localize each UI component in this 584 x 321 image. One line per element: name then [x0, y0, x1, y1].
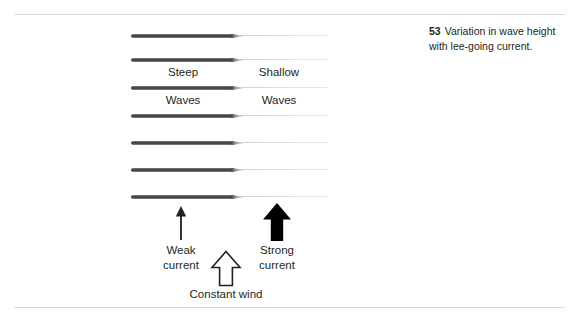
thin-up-arrow-icon [170, 206, 192, 240]
figure-number: 53 [429, 25, 441, 37]
weak-current-label: Weak current [150, 243, 212, 272]
waves-label-left: Waves [152, 95, 214, 107]
wave-line [131, 57, 327, 63]
strong-current-label: Strong current [246, 243, 308, 272]
wave-diagram: Steep Shallow Waves Waves Weak current S… [0, 0, 420, 321]
figure-page: Steep Shallow Waves Waves Weak current S… [0, 0, 584, 321]
hollow-up-arrow-icon [210, 250, 242, 287]
steep-wave-segment [131, 141, 234, 145]
steep-label: Steep [152, 67, 214, 79]
waves-label-right: Waves [246, 95, 312, 107]
wave-line [131, 33, 327, 39]
wave-line [131, 113, 327, 119]
shallow-wave-segment [241, 59, 327, 60]
wave-line [131, 140, 327, 146]
wave-line-stack [131, 30, 327, 202]
figure-caption: 53Variation in wave height with lee-goin… [429, 24, 565, 54]
wave-line [131, 194, 327, 200]
steep-wave-segment [131, 86, 234, 90]
steep-wave-segment [131, 58, 234, 62]
wave-line [131, 85, 327, 91]
steep-wave-segment [131, 195, 234, 199]
figure-caption-text: Variation in wave height with lee-going … [429, 25, 555, 52]
shallow-wave-segment [241, 87, 327, 88]
shallow-wave-segment [241, 142, 327, 143]
constant-wind-label: Constant wind [176, 287, 276, 302]
steep-wave-segment [131, 168, 234, 172]
wave-line [131, 167, 327, 173]
shallow-wave-segment [241, 35, 327, 36]
shallow-label: Shallow [246, 67, 312, 79]
shallow-wave-segment [241, 169, 327, 170]
thick-up-arrow-icon [262, 203, 292, 241]
shallow-wave-segment [241, 115, 327, 116]
steep-wave-segment [131, 34, 234, 38]
steep-wave-segment [131, 114, 234, 118]
shallow-wave-segment [241, 196, 327, 197]
